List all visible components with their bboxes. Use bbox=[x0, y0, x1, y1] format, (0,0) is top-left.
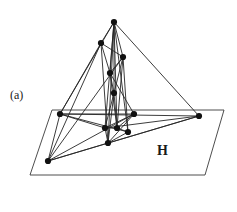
graph-on-plane-figure bbox=[0, 0, 237, 212]
graph-vertex-upper-left bbox=[98, 40, 104, 46]
graph-vertex-upper-right bbox=[120, 54, 126, 60]
graph-edge bbox=[48, 43, 101, 161]
graph-edge bbox=[60, 43, 101, 114]
graph-vertex-mid-lower bbox=[111, 90, 117, 96]
graph-vertex-plane-left bbox=[57, 111, 63, 117]
graph-edge bbox=[108, 114, 134, 143]
graph-vertex-plane-right bbox=[196, 113, 202, 119]
graph-vertex-cluster-mid bbox=[114, 125, 120, 131]
graph-edge bbox=[48, 114, 134, 161]
plane-label-H: H bbox=[157, 143, 168, 159]
graph-vertex-cluster-right bbox=[125, 129, 131, 135]
figure-caption-label: (a) bbox=[10, 88, 23, 103]
graph-edge bbox=[48, 143, 108, 161]
graph-vertex-mid-upper bbox=[107, 70, 113, 76]
graph-vertices bbox=[45, 19, 202, 164]
graph-vertex-apex bbox=[111, 19, 117, 25]
graph-edges bbox=[48, 22, 199, 161]
graph-vertex-cluster-bottom bbox=[105, 140, 111, 146]
graph-vertex-plane-center bbox=[131, 111, 137, 117]
graph-vertex-cluster-left bbox=[102, 125, 108, 131]
graph-vertex-plane-lower-left bbox=[45, 158, 51, 164]
